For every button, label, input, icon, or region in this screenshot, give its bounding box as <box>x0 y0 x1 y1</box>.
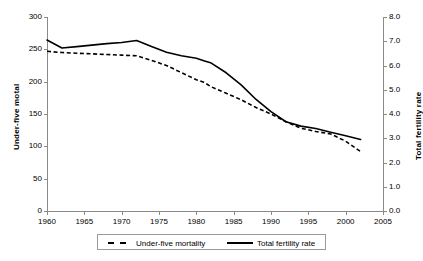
chart-legend: Under-five mortality Total fertility rat… <box>97 234 326 250</box>
legend-label-total-fertility-rate: Total fertility rate <box>257 239 315 248</box>
legend-item-under-five-mortality: Under-five mortality <box>106 237 205 249</box>
chart-container: Under-five motal Total fertility rate 05… <box>0 0 423 261</box>
legend-label-under-five-mortality: Under-five mortality <box>136 239 205 248</box>
plot-area <box>0 0 423 261</box>
dashed-line-icon <box>106 238 132 248</box>
series-line-under-five-mortality <box>47 51 361 151</box>
legend-item-total-fertility-rate: Total fertility rate <box>227 237 315 249</box>
solid-line-icon <box>227 238 253 248</box>
series-line-total-fertility-rate <box>47 40 361 139</box>
